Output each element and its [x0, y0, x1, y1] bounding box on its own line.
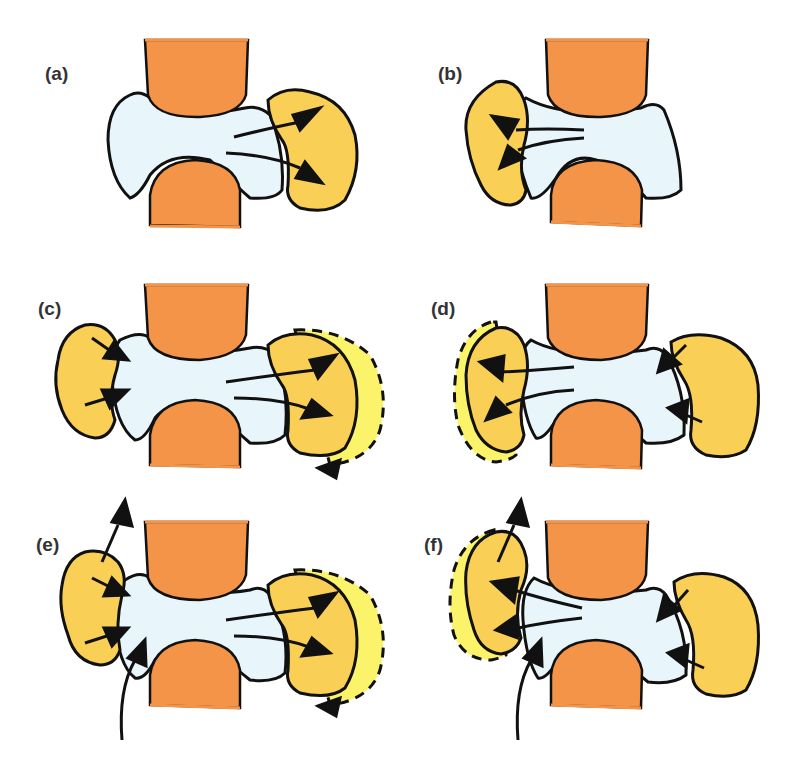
bottom-condyle: [551, 640, 642, 708]
top-condyle: [145, 40, 248, 117]
bottom-condyle: [150, 160, 240, 227]
right-lobe: [671, 335, 759, 457]
diagram-b: [396, 0, 792, 250]
diagram-c: [0, 260, 396, 510]
top-condyle: [546, 285, 648, 360]
top-condyle: [145, 522, 248, 600]
panel-f: (f): [396, 490, 792, 778]
top-condyle: [546, 522, 648, 600]
panel-c: (c): [0, 260, 396, 510]
diagram-f: [396, 490, 792, 778]
top-condyle: [546, 40, 648, 117]
bottom-condyle: [551, 160, 642, 226]
bottom-condyle: [551, 400, 642, 468]
diagram-d: [396, 260, 792, 510]
bottom-condyle: [150, 400, 240, 467]
panel-a: (a): [0, 0, 396, 250]
panel-e: (e): [0, 490, 396, 778]
left-lobe: [61, 551, 124, 665]
left-lobe: [466, 81, 528, 205]
top-condyle: [145, 285, 248, 360]
figure-caption-fragment: [0, 764, 792, 778]
diagram-a: [0, 0, 396, 250]
bottom-condyle: [150, 640, 240, 708]
panel-b: (b): [396, 0, 792, 250]
diagram-e: [0, 490, 396, 778]
left-lobe: [56, 325, 119, 438]
panel-d: (d): [396, 260, 792, 510]
